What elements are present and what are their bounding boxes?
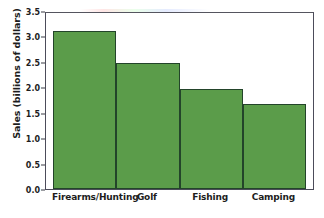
x-tick-label: Camping [242, 192, 305, 202]
y-tick-label: 2.5 [18, 58, 40, 67]
y-tick-label: 1.5 [18, 109, 40, 118]
bar-camping [243, 104, 306, 189]
x-tick-label: Firearms/Hunting [52, 192, 115, 202]
bar-golf [116, 63, 179, 189]
y-tick-label: 0.5 [18, 160, 40, 169]
y-tick-label: 3.5 [18, 8, 40, 17]
x-tick-label: Fishing [179, 192, 242, 202]
bar-chart: Sales (billions of dollars) 3.5 3.0 2.5 … [0, 0, 324, 218]
bar-fishing [180, 89, 243, 189]
x-tick-label: Golf [115, 192, 178, 202]
y-tick-label: 0.0 [18, 186, 40, 195]
bar-firearms-hunting [53, 31, 116, 189]
y-axis-tick-labels: 3.5 3.0 2.5 2.0 1.5 1.0 0.5 0.0 [18, 0, 40, 218]
y-tick-label: 3.0 [18, 33, 40, 42]
plot-area [45, 12, 314, 190]
y-tick-label: 2.0 [18, 84, 40, 93]
y-tick-label: 1.0 [18, 135, 40, 144]
bars-layer [46, 13, 313, 189]
x-axis-tick-labels: Firearms/HuntingGolfFishingCamping [45, 192, 314, 214]
